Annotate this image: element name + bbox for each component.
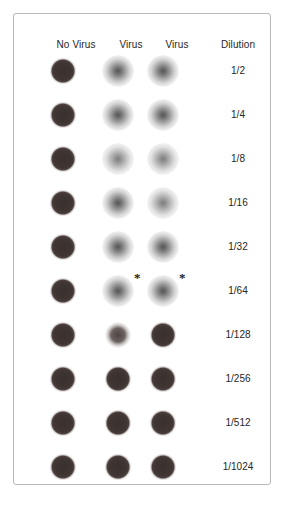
well-r8-c2 (99, 360, 137, 398)
well-r10-c3 (144, 448, 182, 486)
well-interior (147, 99, 179, 131)
well-interior (147, 275, 179, 307)
well-interior (47, 99, 79, 131)
well-interior (102, 319, 134, 351)
well-interior (47, 231, 79, 263)
well-r4-c1 (44, 184, 82, 222)
well-result-diffuse-light-icon (147, 187, 179, 219)
dilution-label-9: 1/512 (206, 417, 270, 428)
well-r6-c1 (44, 272, 82, 310)
well-r10-c2 (99, 448, 137, 486)
column-header-4: Dilution (206, 39, 270, 51)
well-r2-c3 (144, 96, 182, 134)
well-r9-c1 (44, 404, 82, 442)
well-interior (147, 451, 179, 483)
well-r3-c3 (144, 140, 182, 178)
well-interior (102, 407, 134, 439)
well-result-diffuse-icon (102, 231, 134, 263)
well-r2-c1 (44, 96, 82, 134)
well-r8-c1 (44, 360, 82, 398)
column-header-3: Virus (152, 39, 202, 51)
well-result-diffuse-icon (147, 55, 179, 87)
well-result-button-icon (147, 319, 179, 351)
well-interior (102, 55, 134, 87)
well-result-button-icon (47, 231, 79, 263)
well-r3-c1 (44, 140, 82, 178)
well-interior (102, 187, 134, 219)
well-interior (147, 407, 179, 439)
well-interior (147, 143, 179, 175)
well-result-button-icon (147, 363, 179, 395)
well-result-button-icon (102, 407, 134, 439)
well-interior (147, 363, 179, 395)
well-r5-c3 (144, 228, 182, 266)
well-interior (102, 451, 134, 483)
well-result-button-icon (47, 55, 79, 87)
well-interior (102, 143, 134, 175)
well-result-diffuse-light-icon (102, 143, 134, 175)
well-interior (47, 319, 79, 351)
well-interior (47, 143, 79, 175)
well-r9-c2 (99, 404, 137, 442)
column-header-1: No Virus (40, 39, 112, 51)
well-interior (47, 407, 79, 439)
well-interior (147, 319, 179, 351)
dilution-label-5: 1/32 (206, 241, 270, 252)
well-result-diffuse-icon (102, 275, 134, 307)
assay-plate-panel: No VirusVirusVirusDilution1/21/41/81/161… (13, 13, 271, 485)
dilution-label-7: 1/128 (206, 329, 270, 340)
well-result-button-icon (102, 363, 134, 395)
well-r4-c3 (144, 184, 182, 222)
well-r1-c1 (44, 52, 82, 90)
well-result-diffuse-icon (102, 99, 134, 131)
well-result-diffuse-icon (102, 55, 134, 87)
well-interior (102, 363, 134, 395)
well-r8-c3 (144, 360, 182, 398)
dilution-label-6: 1/64 (206, 285, 270, 296)
well-r6-c3 (144, 272, 182, 310)
well-result-diffuse-icon (102, 187, 134, 219)
dilution-label-4: 1/16 (206, 197, 270, 208)
well-result-button-icon (47, 407, 79, 439)
well-result-button-icon (47, 319, 79, 351)
well-result-button-icon (47, 99, 79, 131)
dilution-label-10: 1/1024 (206, 461, 270, 472)
well-r2-c2 (99, 96, 137, 134)
well-r7-c1 (44, 316, 82, 354)
well-r10-c1 (44, 448, 82, 486)
well-result-button-icon (47, 143, 79, 175)
well-interior (47, 451, 79, 483)
well-r3-c2 (99, 140, 137, 178)
well-result-button-icon (147, 451, 179, 483)
well-r7-c3 (144, 316, 182, 354)
well-interior (102, 275, 134, 307)
well-interior (102, 99, 134, 131)
well-interior (147, 231, 179, 263)
well-r1-c2 (99, 52, 137, 90)
well-interior (147, 55, 179, 87)
endpoint-asterisk-r6-c2: * (134, 273, 141, 283)
well-result-button-icon (47, 275, 79, 307)
well-r9-c3 (144, 404, 182, 442)
figure-root: No VirusVirusVirusDilution1/21/41/81/161… (0, 0, 284, 510)
well-result-diffuse-icon (147, 275, 179, 307)
well-result-diffuse-light-icon (147, 143, 179, 175)
well-result-button-icon (102, 451, 134, 483)
dilution-label-1: 1/2 (206, 65, 270, 76)
well-result-button-icon (147, 407, 179, 439)
well-result-button-icon (47, 451, 79, 483)
dilution-label-8: 1/256 (206, 373, 270, 384)
well-result-diffuse-icon (147, 99, 179, 131)
well-r5-c1 (44, 228, 82, 266)
well-interior (102, 231, 134, 263)
well-r5-c2 (99, 228, 137, 266)
well-result-button-icon (47, 187, 79, 219)
well-interior (47, 275, 79, 307)
well-result-diffuse-icon (147, 231, 179, 263)
column-header-2: Virus (106, 39, 156, 51)
dilution-label-2: 1/4 (206, 109, 270, 120)
well-interior (47, 55, 79, 87)
endpoint-asterisk-r6-c3: * (179, 273, 186, 283)
well-r7-c2 (99, 316, 137, 354)
well-r6-c2 (99, 272, 137, 310)
